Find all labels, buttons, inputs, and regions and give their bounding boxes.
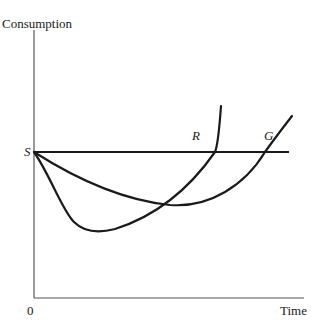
g-label: G bbox=[264, 129, 273, 142]
x-axis-label: Time bbox=[280, 304, 307, 317]
g-curve bbox=[34, 116, 292, 205]
consumption-diagram bbox=[0, 0, 320, 329]
s-label: S bbox=[24, 145, 31, 158]
r-label: R bbox=[192, 129, 200, 142]
y-axis-label: Consumption bbox=[2, 17, 72, 30]
origin-label: 0 bbox=[27, 304, 34, 317]
